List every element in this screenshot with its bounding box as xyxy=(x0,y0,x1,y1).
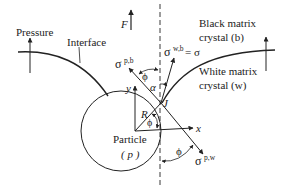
phi-inner-label: ϕ xyxy=(147,117,152,128)
particle-interface-diagram: Pressure Interface F Black matrix crysta… xyxy=(0,0,287,188)
particle-label-1: Particle xyxy=(113,133,147,145)
phi-bottom-label: ϕ xyxy=(176,145,182,157)
alpha-label: α xyxy=(150,81,156,93)
sigma-pw-sup: p,w xyxy=(204,153,216,162)
interface-label: Interface xyxy=(67,36,106,48)
interface-leader xyxy=(79,47,80,63)
sigma-pb-sup: p,b xyxy=(124,56,134,65)
x-axis-label: x xyxy=(195,122,201,134)
black-matrix-label-2: crystal (b) xyxy=(199,31,244,44)
force-label: F xyxy=(120,18,128,30)
sigma-wb-label: σ xyxy=(164,45,171,59)
black-matrix-label-1: Black matrix xyxy=(199,17,257,29)
left-interface-curve xyxy=(18,52,108,96)
white-matrix-label-2: crystal (w) xyxy=(199,79,247,92)
white-matrix-label-1: White matrix xyxy=(199,65,258,77)
phi-inner-arc xyxy=(152,114,157,128)
sigma-pw-label: σ xyxy=(195,154,202,168)
sigma-wb-sup: w,b xyxy=(173,44,184,53)
junction-label: J xyxy=(163,97,169,109)
sigma-pb-label: σ xyxy=(115,57,122,71)
phi-top-label: ϕ xyxy=(142,70,148,82)
pressure-label: Pressure xyxy=(16,26,53,38)
y-axis-label: y xyxy=(125,82,131,94)
radius-label: R xyxy=(140,108,148,120)
sigma-wb-equals: = σ xyxy=(185,46,200,58)
particle-label-2: ( p ) xyxy=(121,148,140,161)
